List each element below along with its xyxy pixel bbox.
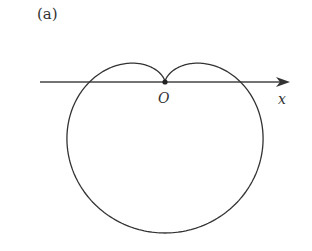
x-axis-label: x <box>278 91 286 107</box>
cardioid-diagram <box>0 0 312 251</box>
origin-point <box>162 79 167 84</box>
origin-label: O <box>158 90 169 106</box>
cardioid-curve <box>67 63 263 233</box>
